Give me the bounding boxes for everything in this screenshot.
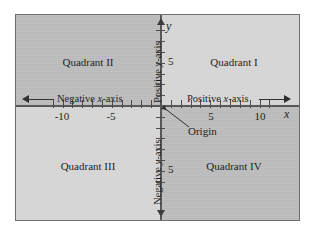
- positive-y-axis-label-prefix: Positive: [152, 67, 163, 103]
- x-tick: [260, 100, 261, 108]
- origin-leader-arrow: [162, 106, 190, 128]
- positive-y-axis-label: Positive y-axis: [152, 41, 163, 103]
- positive-x-axis-label-suffix: -axis: [228, 93, 248, 104]
- x-tick-label-5: 5: [208, 110, 214, 122]
- positive-x-arrow-shaft: [259, 99, 285, 100]
- y-tick: [156, 30, 165, 31]
- x-tick: [250, 100, 251, 108]
- negative-y-axis-label-suffix: -axis: [152, 139, 163, 159]
- negative-x-arrowhead: [22, 95, 29, 103]
- x-tick: [269, 100, 270, 108]
- x-tick: [53, 100, 54, 108]
- negative-x-arrow-shaft: [28, 99, 54, 100]
- x-tick: [131, 100, 132, 108]
- positive-y-axis-label-suffix: -axis: [152, 41, 163, 61]
- y-axis-letter: y: [166, 19, 171, 34]
- x-tick-label-neg10: -10: [55, 110, 70, 122]
- y-axis-up-arrowhead: [157, 18, 165, 25]
- x-tick-label-neg5: -5: [106, 110, 115, 122]
- negative-x-axis-label: Negative x-axis: [57, 93, 123, 104]
- x-tick-label-10: 10: [255, 110, 266, 122]
- y-tick-label-5: 5: [168, 55, 174, 67]
- x-axis-letter: x: [284, 107, 289, 122]
- positive-x-axis-label-prefix: Positive: [187, 93, 223, 104]
- quadrant-2-label: Quadrant II: [62, 56, 113, 68]
- positive-y-axis-label-italic: y: [152, 62, 163, 67]
- negative-x-axis-label-prefix: Negative: [57, 93, 98, 104]
- positive-x-axis-label: Positive x-axis: [187, 93, 249, 104]
- quadrant-1-label: Quadrant I: [210, 56, 257, 68]
- y-axis-down-arrowhead: [157, 210, 165, 217]
- negative-y-axis-label-prefix: Negative: [152, 164, 163, 205]
- y-tick-label-neg5: 5: [168, 163, 174, 175]
- quadrant-4-label: Quadrant IV: [206, 160, 261, 172]
- negative-y-axis-label: Negative y-axis: [152, 139, 163, 205]
- x-axis-line: [16, 105, 300, 107]
- negative-x-axis-label-suffix: -axis: [102, 93, 122, 104]
- origin-label: Origin: [188, 125, 217, 137]
- quadrant-3-label: Quadrant III: [61, 160, 116, 172]
- positive-x-arrowhead: [284, 95, 291, 103]
- coordinate-plane-figure: -10 -5 5 10 5 5 x y Quadrant II Quadrant…: [15, 14, 300, 221]
- negative-y-axis-label-italic: y: [152, 160, 163, 165]
- x-tick: [141, 100, 142, 108]
